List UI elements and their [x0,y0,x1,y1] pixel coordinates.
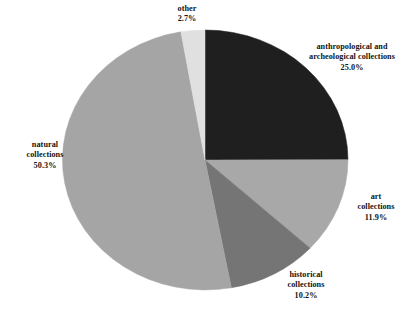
pie-label-natural-collections: natural collections 50.3% [2,140,88,171]
pie-label-anthropological-name-line1: anthropological and [288,42,416,52]
pie-label-anthropological-and-archeological-collections: anthropological and archeological collec… [288,42,416,73]
pie-label-natural-name-line2: collections [2,150,88,160]
pie-label-art-name-line1: art [340,192,412,202]
pie-label-historical-name-line1: historical [258,270,354,280]
pie-label-art-name-line2: collections [340,202,412,212]
pie-label-natural-name-line1: natural [2,140,88,150]
pie-label-natural-value: 50.3% [2,161,88,171]
pie-label-other-name: other [142,4,232,14]
pie-label-art-collections: art collections 11.9% [340,192,412,223]
pie-label-other: other 2.7% [142,4,232,25]
pie-label-anthropological-value: 25.0% [288,63,416,73]
pie-chart-figure: other 2.7% anthropological and archeolog… [0,0,417,313]
pie-label-historical-collections: historical collections 10.2% [258,270,354,301]
pie-label-art-value: 11.9% [340,213,412,223]
pie-label-historical-name-line2: collections [258,280,354,290]
pie-label-historical-value: 10.2% [258,291,354,301]
pie-label-other-value: 2.7% [142,14,232,24]
pie-label-anthropological-name-line2: archeological collections [288,52,416,62]
